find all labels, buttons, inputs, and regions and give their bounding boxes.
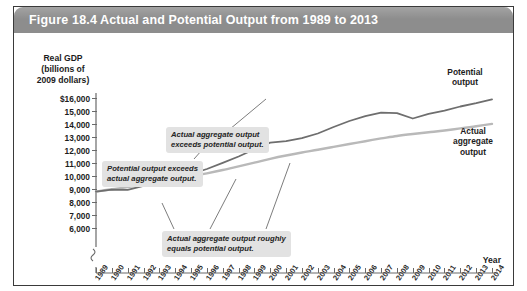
annotation-potential-exceeds-actual-line-2: actual aggregate output. [107,174,198,184]
annotation-roughly-equals-line-2: equals potential output. [167,244,286,254]
annotation-exceeds-potential: Actual aggregate output exceeds potentia… [166,127,269,153]
potential-output-label-line-2: output [434,77,496,87]
annotation-potential-exceeds-actual: Potential output exceeds actual aggregat… [102,161,203,187]
potential-output-label-line-1: Potential [434,67,496,77]
annotation-roughly-equals-line-1: Actual aggregate output roughly [167,234,286,244]
annotation-exceeds-potential-line-2: exceeds potential output. [171,140,264,150]
annotation-potential-exceeds-actual-line-1: Potential output exceeds [107,164,198,174]
actual-output-label-line-2: aggregate [442,136,504,146]
actual-output-label-line-3: output [442,147,504,157]
figure-number-label: Figure 18.4 [29,13,97,27]
figure-title: Actual and Potential Output from 1989 to… [100,13,378,27]
figure-title-bar: Figure 18.4 Actual and Potential Output … [14,7,513,33]
potential-output-label: Potential output [434,67,496,88]
annotation-exceeds-potential-line-1: Actual aggregate output [171,130,264,140]
figure-container: Figure 18.4 Actual and Potential Output … [13,6,514,286]
annotation-roughly-equals: Actual aggregate output roughly equals p… [162,231,291,257]
actual-output-label-line-1: Actual [442,126,504,136]
actual-output-label: Actual aggregate output [442,126,504,157]
y-axis-break-icon [91,249,95,261]
chart-plot-area: Real GDP (billions of 2009 dollars) $16,… [14,33,513,285]
